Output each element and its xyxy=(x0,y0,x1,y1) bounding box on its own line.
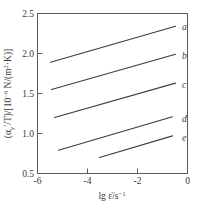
series-line-e xyxy=(100,136,173,158)
series-line-d xyxy=(59,117,173,151)
y-tick-label: 2.5 xyxy=(22,9,34,19)
x-tick-label: -4 xyxy=(84,176,92,186)
series-label-c: c xyxy=(182,80,187,90)
chart-figure: 2.5 2.0 1.5 1.0 0.5 -6 -4 -2 0 lg ε̇/s−1… xyxy=(0,0,200,205)
chart-svg: 2.5 2.0 1.5 1.0 0.5 -6 -4 -2 0 lg ε̇/s−1… xyxy=(0,0,200,205)
series-label-a: a xyxy=(182,22,187,32)
series-label-e: e xyxy=(182,133,186,143)
series-label-b: b xyxy=(182,51,187,61)
y-axis-ticks xyxy=(38,14,43,174)
x-axis-ticks xyxy=(38,169,188,174)
x-tick-label: -6 xyxy=(34,176,42,186)
y-tick-label: 1.5 xyxy=(22,89,34,99)
series-line-a xyxy=(51,26,176,62)
series-line-b xyxy=(52,54,176,89)
x-tick-labels: -6 -4 -2 0 xyxy=(34,176,191,186)
y-axis-title: (αy′/T)/[10−6 N/(m2·K)] xyxy=(2,49,15,139)
y-tick-label: 1.0 xyxy=(22,129,34,139)
series-labels-group: a b c d e xyxy=(182,22,187,143)
x-axis-title: lg ε̇/s−1 xyxy=(98,190,125,201)
data-series-group xyxy=(51,26,176,157)
series-label-d: d xyxy=(182,114,187,124)
y-tick-label: 2.0 xyxy=(22,49,34,59)
series-line-c xyxy=(55,83,176,117)
x-tick-label: 0 xyxy=(185,176,190,186)
y-tick-label: 0.5 xyxy=(22,169,34,179)
y-tick-labels: 2.5 2.0 1.5 1.0 0.5 xyxy=(22,9,34,179)
x-tick-label: -2 xyxy=(134,176,142,186)
